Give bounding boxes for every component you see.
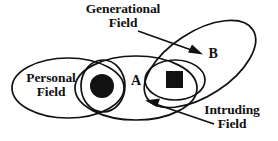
personal-field-dot (90, 74, 114, 98)
label-personal-field: Personal Field (14, 71, 88, 99)
diagram-canvas: Generational Field Personal Field Intrud… (0, 0, 278, 141)
label-generational-field: Generational Field (68, 2, 178, 30)
label-region-a: A (128, 74, 144, 88)
intruding-field-square (166, 71, 183, 88)
label-intruding-field: Intruding Field (186, 103, 278, 131)
generational-field-arrow (138, 31, 203, 55)
label-region-b: B (205, 47, 221, 61)
